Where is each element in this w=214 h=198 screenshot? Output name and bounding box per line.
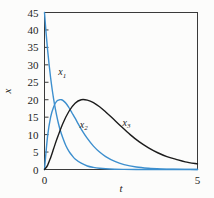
x-tick-label-5: 5 <box>195 174 201 186</box>
y-axis-tick-labels: 051015202530354045 <box>28 7 40 176</box>
y-tick-label-40: 40 <box>28 24 40 36</box>
y-tick-label-35: 35 <box>28 41 40 53</box>
curve-label-x2: x2 <box>79 119 88 133</box>
curve-annotations: x1x2x3 <box>57 66 131 132</box>
y-tick-label-10: 10 <box>28 129 40 141</box>
curve-label-subscript-x3: 3 <box>126 122 131 130</box>
curve-label-subscript-x1: 1 <box>63 72 67 80</box>
y-tick-label-15: 15 <box>28 111 40 123</box>
series-line-x3 <box>45 99 198 169</box>
curve-label-x1: x1 <box>57 66 66 80</box>
y-tick-label-25: 25 <box>28 76 40 88</box>
y-tick-label-0: 0 <box>33 164 39 176</box>
data-series-group <box>45 13 198 170</box>
series-line-x1 <box>45 13 198 170</box>
line-chart: 051015202530354045 05 x1x2x3 t x <box>0 0 214 198</box>
plot-frame <box>45 13 198 170</box>
x-tick-label-0: 0 <box>42 174 48 186</box>
y-tick-label-30: 30 <box>28 59 40 71</box>
x-axis-title: t <box>119 182 123 194</box>
chart-figure: 051015202530354045 05 x1x2x3 t x <box>0 0 214 198</box>
curve-label-subscript-x2: 2 <box>84 124 88 132</box>
y-tick-label-20: 20 <box>28 94 40 106</box>
y-tick-label-5: 5 <box>33 146 39 158</box>
y-axis-title: x <box>1 88 13 94</box>
y-tick-label-45: 45 <box>28 7 40 19</box>
